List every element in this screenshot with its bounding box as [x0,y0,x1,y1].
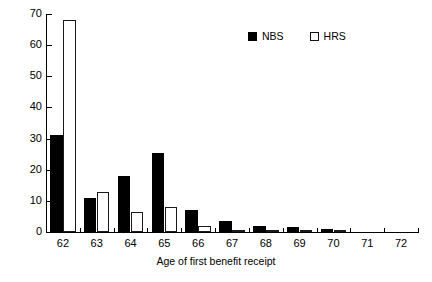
bar-nbs-66 [185,210,198,232]
bar-nbs-70 [321,229,334,232]
bar-hrs-66 [198,226,211,232]
y-axis-tick-label: 40 [2,101,42,112]
chart-legend: NBS HRS [248,30,346,42]
x-axis-tick [418,228,419,233]
y-axis-tick-label: 0 [2,226,42,237]
bar-nbs-63 [84,198,97,232]
x-axis-title: Age of first benefit receipt [0,255,432,267]
y-axis-tick-label: 50 [2,70,42,81]
bar-nbs-65 [152,153,165,232]
y-axis-tick [47,232,52,233]
bar-chart: 010203040506070 6263646566676869707172 A… [0,0,432,282]
bar-nbs-69 [287,227,300,232]
bar-hrs-67 [232,230,245,232]
bar-hrs-70 [334,230,347,232]
legend-label-nbs: NBS [262,30,284,42]
bar-nbs-67 [219,221,232,232]
bar-hrs-69 [300,230,313,232]
bar-nbs-62 [50,135,63,232]
plot-area [46,14,418,232]
bar-hrs-65 [165,207,178,232]
x-axis-line [46,232,418,233]
legend-swatch-nbs-icon [248,32,257,41]
legend-swatch-hrs-icon [310,32,319,41]
y-axis-tick-label: 60 [2,39,42,50]
bar-hrs-68 [266,230,279,232]
bar-nbs-68 [253,226,266,232]
legend-entry-hrs: HRS [310,30,346,42]
y-axis-tick-label: 70 [2,8,42,19]
y-axis-tick-label: 10 [2,195,42,206]
x-axis-tick-label: 72 [381,237,421,249]
legend-entry-nbs: NBS [248,30,284,42]
y-axis-tick-label: 30 [2,133,42,144]
bar-nbs-64 [118,176,131,232]
legend-label-hrs: HRS [324,30,346,42]
bar-hrs-64 [131,212,144,232]
bar-hrs-63 [97,192,110,232]
y-axis-tick-label: 20 [2,164,42,175]
bar-hrs-62 [63,20,76,232]
